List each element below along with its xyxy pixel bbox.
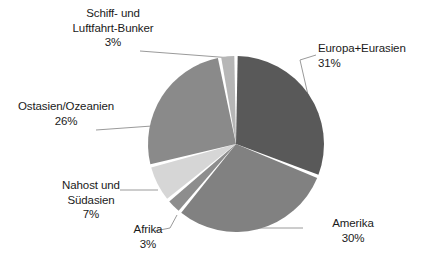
- slice-label-ostasien-line1: Ostasien/Ozeanien: [4, 99, 128, 114]
- leader-line-schiff: [140, 51, 232, 58]
- pie-chart-figure: Schiff- und Luftfahrt-Bunker 3% Europa+E…: [0, 0, 426, 269]
- slice-label-amerika-line1: Amerika: [310, 216, 396, 231]
- slice-label-afrika: Afrika 3%: [110, 222, 186, 251]
- slice-label-ostasien-value: 26%: [4, 114, 128, 129]
- slice-label-ostasien-ozeanien: Ostasien/Ozeanien 26%: [4, 99, 128, 128]
- pie-slice-group: [148, 56, 324, 232]
- slice-label-europa-line1: Europa+Eurasien: [318, 41, 424, 56]
- slice-label-europa-value: 31%: [318, 56, 424, 71]
- slice-label-afrika-line1: Afrika: [110, 222, 186, 237]
- slice-label-schiff-und-luftfahrt-bunker: Schiff- und Luftfahrt-Bunker 3%: [48, 6, 178, 50]
- slice-label-nahost-und-suedasien: Nahost und Südasien 7%: [38, 178, 144, 222]
- slice-label-afrika-value: 3%: [110, 237, 186, 252]
- slice-label-nahost-value: 7%: [38, 207, 144, 222]
- slice-label-schiff-line1: Schiff- und: [48, 6, 178, 21]
- slice-label-amerika: Amerika 30%: [310, 216, 396, 245]
- slice-label-amerika-value: 30%: [310, 231, 396, 246]
- slice-label-schiff-value: 3%: [48, 35, 178, 50]
- slice-label-europa-eurasien: Europa+Eurasien 31%: [318, 41, 424, 70]
- slice-label-nahost-line1: Nahost und: [38, 178, 144, 193]
- slice-label-nahost-line2: Südasien: [38, 193, 144, 208]
- slice-label-schiff-line2: Luftfahrt-Bunker: [48, 21, 178, 36]
